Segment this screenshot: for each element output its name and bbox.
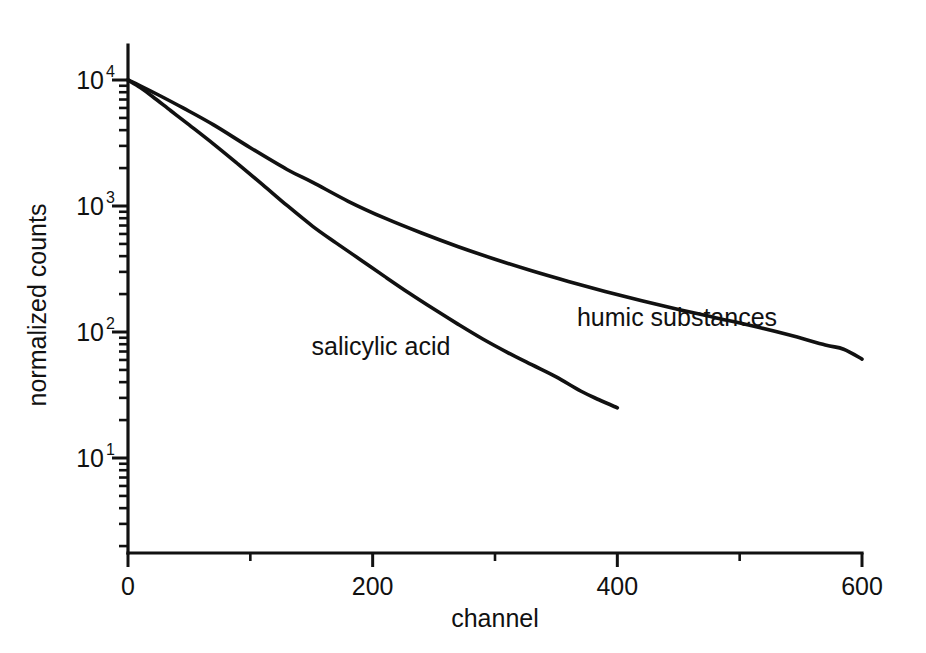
series-label-humic-substances: humic substances [577, 303, 777, 331]
figure-root: 101102103104 0200400600 salicylic acidhu… [0, 0, 926, 653]
y-tick-label: 104 [76, 63, 115, 94]
y-tick-label-exponent: 1 [106, 441, 115, 458]
y-tick-label: 101 [76, 441, 115, 472]
chart-canvas: 101102103104 0200400600 salicylic acidhu… [0, 0, 926, 653]
y-tick-label-mantissa: 10 [76, 66, 104, 94]
data-series-group [128, 80, 862, 408]
x-tick-label: 0 [121, 572, 135, 600]
y-axis-tick-labels: 101102103104 [76, 63, 115, 472]
x-tick-label: 200 [352, 572, 394, 600]
x-tick-label: 600 [841, 572, 883, 600]
y-tick-label-mantissa: 10 [76, 318, 104, 346]
x-axis-ticks [128, 553, 862, 567]
series-label-salicylic-acid: salicylic acid [312, 332, 451, 360]
x-axis-tick-labels: 0200400600 [121, 572, 883, 600]
y-tick-label-exponent: 2 [106, 315, 115, 332]
y-axis-title: normalized counts [23, 204, 51, 407]
y-tick-label: 102 [76, 315, 115, 346]
y-tick-label-exponent: 3 [106, 189, 115, 206]
y-axis-ticks [112, 80, 128, 546]
x-axis-title: channel [451, 604, 539, 632]
x-tick-label: 400 [596, 572, 638, 600]
series-annotations: salicylic acidhumic substances [312, 303, 778, 360]
y-tick-label-mantissa: 10 [76, 444, 104, 472]
y-tick-label-mantissa: 10 [76, 192, 104, 220]
y-tick-label-exponent: 4 [106, 63, 115, 80]
y-tick-label: 103 [76, 189, 115, 220]
